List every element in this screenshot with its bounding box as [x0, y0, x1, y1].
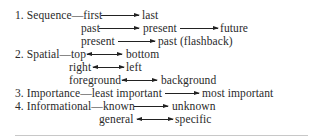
informational-general: general: [99, 113, 134, 126]
sequence-flashback: past (flashback): [158, 35, 233, 48]
right-arrow-icon: [134, 106, 168, 107]
spatial-left: left: [126, 61, 142, 74]
importance-most: most important: [202, 87, 273, 100]
spatial-right: right: [69, 61, 91, 74]
sequence-last: last: [142, 9, 158, 22]
sequence-line-3: present past (flashback): [0, 35, 316, 48]
spatial-background: background: [161, 74, 216, 87]
sequence-future: future: [220, 22, 248, 35]
informational-lead: 4. Informational—known: [15, 100, 135, 113]
right-arrow-icon: [101, 15, 139, 16]
sequence-present-2: present: [81, 35, 115, 48]
right-arrow-icon: [165, 93, 199, 94]
sequence-lead: 1. Sequence—first: [15, 9, 102, 22]
spatial-bottom: bottom: [126, 48, 159, 61]
informational-unknown: unknown: [172, 100, 216, 113]
double-arrow-icon: [122, 80, 157, 81]
right-arrow-icon: [118, 41, 155, 42]
sequence-line-1: 1. Sequence—first last: [0, 9, 316, 22]
double-arrow-icon: [137, 119, 173, 120]
spatial-line-3: foreground background: [0, 74, 316, 87]
informational-line-2: general specific: [0, 113, 316, 126]
importance-line: 3. Importance—least important most impor…: [0, 87, 316, 100]
spatial-lead: 2. Spatial—top: [15, 48, 86, 61]
importance-lead: 3. Importance—least important: [15, 87, 162, 100]
spatial-foreground: foreground: [69, 74, 121, 87]
sequence-present: present: [143, 22, 177, 35]
spatial-line-2: right left: [0, 61, 316, 74]
sequence-past: past: [81, 22, 100, 35]
sequence-line-2: past present future: [0, 22, 316, 35]
spatial-line-1: 2. Spatial—top bottom: [0, 48, 316, 61]
divider-rule: [15, 135, 308, 136]
right-arrow-icon: [180, 28, 218, 29]
double-arrow-icon: [87, 54, 122, 55]
right-arrow-icon: [99, 28, 139, 29]
informational-line-1: 4. Informational—known unknown: [0, 100, 316, 113]
double-arrow-icon: [93, 67, 124, 68]
informational-specific: specific: [175, 113, 212, 126]
